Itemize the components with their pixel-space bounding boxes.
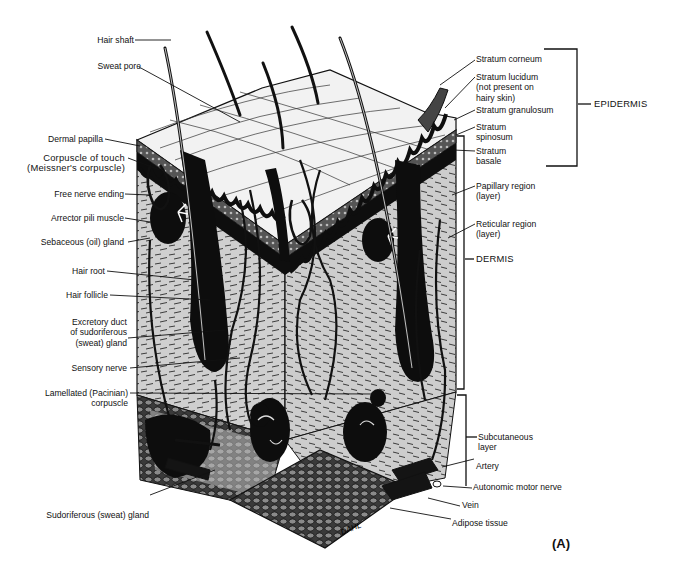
bracket-subcutaneous (457, 395, 477, 486)
label-arrector-pili-muscle: Arrector pili muscle (51, 213, 124, 223)
label-sensory-nerve: Sensory nerve (72, 363, 127, 373)
region-label-dermis: DERMIS (476, 254, 514, 264)
label-hair-root: Hair root (72, 266, 105, 276)
label-corpuscle-of-touch: Corpuscle of touch (Meissner's corpuscle… (27, 153, 125, 174)
label-stratum-corneum: Stratum corneum (476, 54, 542, 64)
label-papillary-region: Papillary region (layer) (476, 181, 535, 202)
label-excretory-duct: Excretory duct of sudoriferous (sweat) g… (70, 317, 127, 348)
label-stratum-granulosum: Stratum granulosum (476, 105, 553, 115)
label-hair-follicle: Hair follicle (66, 290, 108, 300)
label-vein: Vein (462, 500, 479, 510)
label-subcutaneous-layer: Subcutaneous layer (478, 432, 533, 453)
label-hair-shaft: Hair shaft (97, 35, 134, 45)
label-reticular-region: Reticular region (layer) (476, 219, 536, 240)
label-stratum-basale: Stratum basale (476, 146, 506, 167)
label-autonomic-motor-nerve: Autonomic motor nerve (473, 482, 562, 492)
label-adipose-tissue: Adipose tissue (452, 518, 508, 528)
label-dermal-papilla: Dermal papilla (48, 134, 103, 144)
label-sweat-pore: Sweat pore (98, 61, 141, 71)
label-lamellated-corpuscle: Lamellated (Pacinian) corpuscle (45, 388, 128, 409)
region-label-epidermis: EPIDERMIS (594, 99, 647, 109)
label-sudoriferous-gland: Sudoriferous (sweat) gland (46, 510, 149, 520)
panel-label: (A) (552, 536, 570, 551)
label-sebaceous-gland: Sebaceous (oil) gland (41, 237, 124, 247)
label-artery: Artery (476, 461, 499, 471)
bracket-dermis (457, 136, 474, 389)
label-free-nerve-ending: Free nerve ending (54, 189, 124, 199)
label-stratum-lucidum: Stratum lucidum (not present on hairy sk… (476, 72, 538, 103)
label-stratum-spinosum: Stratum spinosum (476, 122, 513, 143)
